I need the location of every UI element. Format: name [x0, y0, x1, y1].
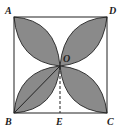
geometry-diagram: A D B E C O — [0, 0, 122, 131]
label-b: B — [4, 116, 12, 127]
petal-top-left — [14, 17, 60, 66]
label-a: A — [4, 5, 12, 16]
label-e: E — [55, 116, 63, 127]
label-o: O — [63, 53, 70, 64]
petal-bottom-right — [60, 66, 107, 113]
label-d: D — [108, 5, 116, 16]
label-c: C — [107, 116, 114, 127]
